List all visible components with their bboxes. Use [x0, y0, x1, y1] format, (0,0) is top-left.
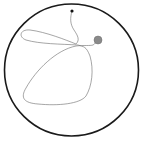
escape-platform	[94, 36, 102, 44]
trajectory-diagram	[0, 0, 145, 150]
swim-trajectory-path	[21, 11, 98, 105]
water-maze-figure	[0, 0, 145, 150]
start-point-marker	[70, 9, 73, 12]
